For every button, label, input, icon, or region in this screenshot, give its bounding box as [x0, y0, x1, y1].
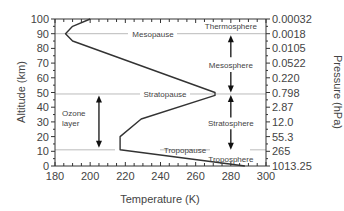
x-tick-label: 220 — [116, 170, 134, 182]
stratosphere-up-arrowhead-icon — [228, 95, 234, 102]
atmosphere-temperature-chart: 01020304050607080901001013.2526555.312.0… — [0, 0, 344, 211]
x-tick-label: 240 — [151, 170, 169, 182]
y2-tick-label: 1013.25 — [272, 160, 312, 172]
y2-tick-label: 2.87 — [272, 101, 293, 113]
y-tick-label: 60 — [37, 72, 49, 84]
y-tick-label: 90 — [37, 28, 49, 40]
x-tick-label: 280 — [222, 170, 240, 182]
y-tick-label: 80 — [37, 42, 49, 54]
y2-tick-label: 0.798 — [272, 87, 300, 99]
x-axis-label: Temperature (K) — [120, 193, 199, 205]
mesosphere-label: Mesosphere — [209, 61, 254, 70]
mesopause-label: Mesopause — [132, 30, 174, 39]
y-tick-label: 30 — [37, 116, 49, 128]
ozone-label-line2: layer — [62, 119, 80, 128]
x-tick-label: 180 — [46, 170, 64, 182]
y2-tick-label: 265 — [272, 145, 290, 157]
ozone-label-line1: Ozone — [62, 109, 86, 118]
y2-tick-label: 0.00032 — [272, 13, 312, 25]
stratopause-label: Stratopause — [143, 90, 187, 99]
y2-tick-label: 0.0018 — [272, 28, 306, 40]
x-tick-label: 260 — [186, 170, 204, 182]
y2-tick-label: 55.3 — [272, 131, 293, 143]
thermosphere-label: Thermosphere — [205, 22, 258, 31]
y-tick-label: 10 — [37, 145, 49, 157]
y2-axis-label: Pressure (hPa) — [332, 55, 344, 129]
x-tick-label: 300 — [257, 170, 275, 182]
y2-tick-label: 0.0522 — [272, 57, 306, 69]
tropopause-label: Tropopause — [164, 146, 207, 155]
y-tick-label: 40 — [37, 101, 49, 113]
troposphere-label: Troposphere — [208, 155, 254, 164]
ozone-arrow-down-arrowhead-icon — [96, 141, 102, 148]
y-tick-label: 70 — [37, 57, 49, 69]
x-tick-label: 200 — [81, 170, 99, 182]
y-axis-label: Altitude (km) — [15, 61, 27, 123]
mesosphere-down-arrowhead-icon — [228, 86, 234, 93]
y2-tick-label: 12.0 — [272, 116, 293, 128]
stratosphere-down-arrowhead-icon — [228, 143, 234, 150]
y2-tick-label: 0.0105 — [272, 42, 306, 54]
stratosphere-label: Stratosphere — [208, 119, 254, 128]
ozone-arrow-up-arrowhead-icon — [96, 95, 102, 102]
y-tick-label: 100 — [31, 13, 49, 25]
y2-tick-label: 0.220 — [272, 72, 300, 84]
annotations: TropopauseStratopauseMesopauseTropospher… — [62, 22, 257, 164]
mesosphere-up-arrowhead-icon — [228, 35, 234, 42]
y-tick-label: 20 — [37, 131, 49, 143]
y-tick-label: 50 — [37, 87, 49, 99]
